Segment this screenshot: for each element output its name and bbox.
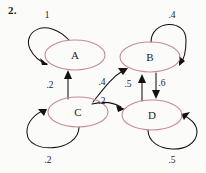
edge-b-to-d-arrowhead [152, 90, 160, 99]
edge-label-c-to-a: .2 [46, 80, 53, 90]
edge-label-d-to-b: .5 [124, 79, 131, 89]
state-a-label: A [71, 49, 79, 61]
edge-c-to-c [27, 109, 79, 148]
edge-c-to-c-path [27, 110, 79, 148]
edge-label-b-to-b: .4 [168, 10, 175, 20]
edge-d-to-b-arrowhead [138, 74, 146, 83]
edge-label-c-to-c: .2 [44, 155, 51, 165]
state-d-label: D [148, 109, 156, 121]
edge-c-to-b-arrowhead [118, 68, 128, 75]
state-node-d[interactable]: D [122, 100, 182, 130]
edge-a-to-a-path [28, 28, 69, 64]
markov-chain-diagram: A B C D 1 .4 .2 .5 .2 .4 .2 .5 .6 [0, 0, 206, 173]
edge-c-to-a [64, 70, 72, 99]
edge-a-to-a [28, 28, 69, 65]
state-node-a[interactable]: A [45, 40, 105, 70]
edge-label-b-to-d: .6 [158, 78, 165, 88]
edge-a-to-a-arrowhead [40, 58, 48, 65]
edge-c-to-d [92, 102, 125, 112]
edge-d-to-b [138, 74, 146, 101]
edge-label-c-to-d: .2 [98, 96, 105, 106]
state-b-label: B [146, 51, 153, 63]
state-c-label: C [74, 106, 81, 118]
edge-label-a-to-a: 1 [45, 10, 50, 20]
edge-label-c-to-b: .4 [98, 77, 105, 87]
diagram-page: 2. [0, 0, 206, 173]
edge-c-to-a-arrowhead [64, 70, 72, 79]
edge-label-d-to-d: .5 [168, 155, 175, 165]
state-node-b[interactable]: B [120, 42, 180, 72]
